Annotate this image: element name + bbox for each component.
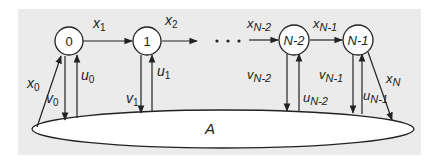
node-N-1: N-1 [343,25,373,55]
node-1: 1 [133,27,161,55]
svg-text:1: 1 [143,34,150,49]
ellipse-A [32,110,414,148]
svg-text:N-2: N-2 [284,33,306,48]
ellipse-A-label: A [204,120,215,137]
svg-text:N-1: N-1 [348,33,369,48]
svg-text:0: 0 [65,34,72,49]
node-0: 0 [55,27,83,55]
node-N-2: N-2 [279,25,309,55]
diagram-canvas: A 0 1 N-2 N-1 x1 x2 xN-2 xN-1 x0 v0 u0 [0,0,439,160]
